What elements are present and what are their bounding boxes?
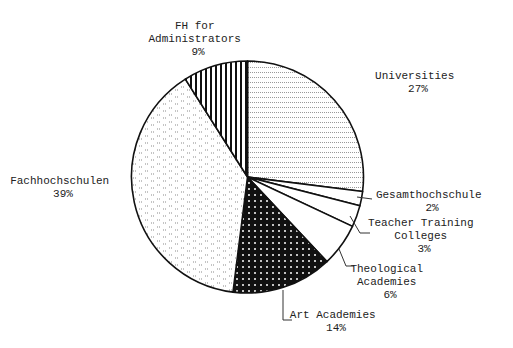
label-universities: Universities 27% <box>375 70 461 95</box>
label-fh-administrators: FH for Administrators 9% <box>148 20 247 58</box>
pie-slices <box>131 61 363 293</box>
pie-chart: FH for Administrators 9% Universities 27… <box>0 0 513 348</box>
label-art-academies: Art Academies 14% <box>290 309 382 334</box>
label-gesamthochschule: Gesamthochschule 2% <box>376 189 488 214</box>
label-fachhochschulen: Fachhochschulen 39% <box>10 175 116 200</box>
label-theological: Theological Academies 6% <box>350 263 429 301</box>
pie-slice-universities <box>248 61 364 192</box>
label-teacher-training: Teacher Training Colleges 3% <box>368 217 480 255</box>
